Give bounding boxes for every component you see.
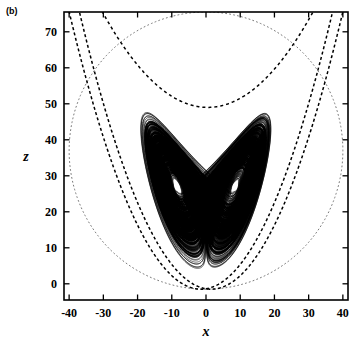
plot-canvas: -40-30-20-10010203040010203040506070xz <box>0 0 363 344</box>
x-tick-label: -20 <box>130 306 146 320</box>
x-tick-label: 20 <box>268 306 280 320</box>
x-tick-label: 10 <box>234 306 246 320</box>
x-tick-label: 30 <box>303 306 315 320</box>
y-tick-label: 20 <box>45 205 57 219</box>
curves-layer <box>64 0 348 289</box>
x-tick-label: -40 <box>61 306 77 320</box>
x-tick-label: 0 <box>203 306 209 320</box>
y-tick-label: 70 <box>45 25 57 39</box>
y-tick-label: 0 <box>51 277 57 291</box>
y-tick-label: 60 <box>45 61 57 75</box>
figure-panel: (b) -40-30-20-10010203040010203040506070… <box>0 0 363 344</box>
y-tick-label: 40 <box>45 133 57 147</box>
x-tick-label: -30 <box>95 306 111 320</box>
x-axis-title: x <box>202 324 210 339</box>
y-axis-title: z <box>22 149 29 164</box>
x-tick-label: 40 <box>337 306 349 320</box>
y-tick-label: 50 <box>45 97 57 111</box>
y-tick-label: 30 <box>45 169 57 183</box>
x-tick-label: -10 <box>164 306 180 320</box>
y-tick-label: 10 <box>45 241 57 255</box>
